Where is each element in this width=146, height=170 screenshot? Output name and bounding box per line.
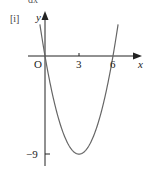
x-tick-label-3: 3 [76, 59, 82, 70]
y-axis-label: y [36, 12, 41, 23]
y-axis-arrow-icon [42, 11, 49, 20]
origin-label: O [34, 59, 42, 70]
y-tick-label-neg9: −9 [26, 149, 38, 160]
parabola-graph [0, 0, 146, 170]
x-tick-label-6: 6 [110, 59, 116, 70]
x-axis-label: x [138, 59, 143, 70]
parabola-curve [40, 24, 118, 154]
